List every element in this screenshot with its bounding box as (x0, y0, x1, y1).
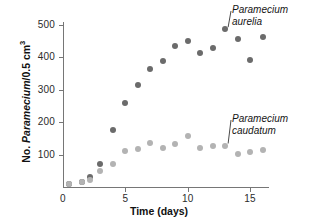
leader-line-caudatum (228, 120, 231, 144)
data-point (247, 57, 253, 63)
annotation-aurelia-line1: Paramecium (232, 4, 288, 16)
data-point (247, 149, 253, 155)
data-point (110, 161, 116, 167)
data-point (135, 82, 141, 88)
x-tick-10 (188, 188, 189, 192)
y-axis-line (63, 22, 64, 188)
data-point (235, 36, 241, 42)
annotation-paramecium-caudatum: Paramecium caudatum (232, 113, 288, 136)
data-point (172, 43, 178, 49)
data-point (185, 133, 191, 139)
x-axis-title: Time (days) (0, 205, 318, 217)
x-title-label: Time (days) (130, 205, 188, 217)
data-point (122, 100, 128, 106)
leader-line-aurelia (228, 11, 231, 27)
data-point (210, 45, 216, 51)
data-point (87, 177, 93, 183)
data-point (97, 168, 103, 174)
data-point (135, 146, 141, 152)
x-tick-label-10: 10 (175, 193, 201, 204)
x-tick-15 (250, 188, 251, 192)
annotation-paramecium-aurelia: Paramecium aurelia (232, 4, 288, 27)
x-tick-label-0: 0 (50, 193, 76, 204)
annotation-caudatum-line1: Paramecium (232, 113, 288, 125)
data-point (222, 26, 228, 32)
y-title-superscript: 3 (18, 41, 27, 45)
data-point (210, 143, 216, 149)
y-tick-300 (59, 90, 63, 91)
y-title-species: Paramecium (20, 81, 32, 143)
data-point (185, 38, 191, 44)
annotation-caudatum-line2: caudatum (232, 125, 288, 137)
data-point (97, 161, 103, 167)
data-point (110, 127, 116, 133)
data-point (172, 141, 178, 147)
data-point (222, 143, 228, 149)
x-tick-5 (125, 188, 126, 192)
y-tick-500 (59, 25, 63, 26)
data-point (260, 147, 266, 153)
y-title-prefix: No. (20, 143, 32, 163)
x-axis-line (63, 187, 269, 188)
x-tick-label-15: 15 (237, 193, 263, 204)
data-point (260, 34, 266, 40)
data-point (197, 50, 203, 56)
data-point (122, 148, 128, 154)
annotation-aurelia-line2: aurelia (232, 16, 288, 28)
data-point (197, 145, 203, 151)
chart-figure: 100200300400500051015 No. Paramecium/0.5… (0, 0, 318, 224)
data-point (79, 179, 85, 185)
data-point (160, 58, 166, 64)
y-axis-title: No. Paramecium/0.5 cm3 (18, 17, 32, 187)
y-tick-200 (59, 122, 63, 123)
x-tick-label-5: 5 (112, 193, 138, 204)
leader-lines (0, 0, 318, 224)
data-point (147, 140, 153, 146)
data-point (235, 151, 241, 157)
y-tick-100 (59, 155, 63, 156)
y-title-suffix: /0.5 cm (20, 45, 32, 81)
y-tick-400 (59, 57, 63, 58)
data-point (160, 145, 166, 151)
data-point (147, 66, 153, 72)
